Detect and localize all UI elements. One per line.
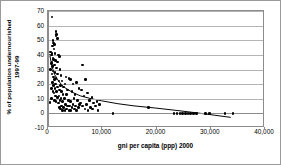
data-point xyxy=(71,90,74,93)
data-point xyxy=(64,109,67,112)
data-point xyxy=(56,37,59,40)
data-point xyxy=(59,68,62,71)
x-tick-mark xyxy=(47,127,48,130)
data-point xyxy=(98,103,101,106)
plot-area xyxy=(47,10,264,127)
data-point xyxy=(86,92,89,95)
x-tick-mark xyxy=(101,127,102,130)
data-point xyxy=(75,109,78,112)
data-point xyxy=(66,89,69,92)
data-point xyxy=(173,112,176,115)
data-point xyxy=(55,90,58,93)
data-point xyxy=(232,112,235,115)
gridline xyxy=(48,40,263,41)
y-axis-tick-labels: -10010203040506070 xyxy=(23,10,44,127)
data-point xyxy=(84,78,87,81)
data-point xyxy=(76,99,79,102)
zero-axis-line xyxy=(48,113,263,114)
y-axis-title: % of population undernourished 1997-99 xyxy=(1,1,25,133)
y-tick-label: 60 xyxy=(23,21,44,28)
data-point xyxy=(91,96,94,99)
data-point xyxy=(224,112,227,115)
data-point xyxy=(208,112,211,115)
data-point xyxy=(147,106,150,109)
data-point xyxy=(50,54,53,57)
gridline xyxy=(48,55,263,56)
chart-figure: % of population undernourished 1997-99 -… xyxy=(0,0,281,165)
y-tick-label: 30 xyxy=(23,65,44,72)
data-point xyxy=(195,112,198,115)
y-tick-label: 50 xyxy=(23,36,44,43)
data-point xyxy=(192,112,195,115)
data-point xyxy=(58,55,61,58)
data-point xyxy=(65,93,68,96)
y-tick-label: 40 xyxy=(23,50,44,57)
data-point xyxy=(59,84,62,87)
gridline xyxy=(48,99,263,100)
data-point xyxy=(85,103,88,106)
data-point xyxy=(97,109,100,112)
data-point xyxy=(75,81,78,84)
x-tick-mark xyxy=(264,127,265,130)
gridline xyxy=(48,11,263,12)
data-point xyxy=(88,99,91,102)
y-tick-label: 70 xyxy=(23,7,44,14)
data-point xyxy=(204,112,207,115)
x-tick-mark xyxy=(210,127,211,130)
data-point xyxy=(50,97,53,100)
y-tick-label: 20 xyxy=(23,80,44,87)
gridline xyxy=(48,26,263,27)
data-point xyxy=(69,78,72,81)
data-point xyxy=(69,109,72,112)
y-tick-label: 0 xyxy=(23,109,44,116)
x-tick-mark xyxy=(156,127,157,130)
y-axis-title-line2: 1997-99 xyxy=(13,19,21,114)
gridline xyxy=(48,84,263,85)
gridline xyxy=(48,70,263,71)
y-tick-label: 10 xyxy=(23,94,44,101)
x-axis-title: gni per capita (ppp) 2000 xyxy=(47,142,264,149)
trendline xyxy=(48,11,263,126)
data-point xyxy=(56,86,59,89)
y-axis-title-line1: % of population undernourished xyxy=(5,19,12,114)
y-tick-label: -10 xyxy=(23,124,44,131)
